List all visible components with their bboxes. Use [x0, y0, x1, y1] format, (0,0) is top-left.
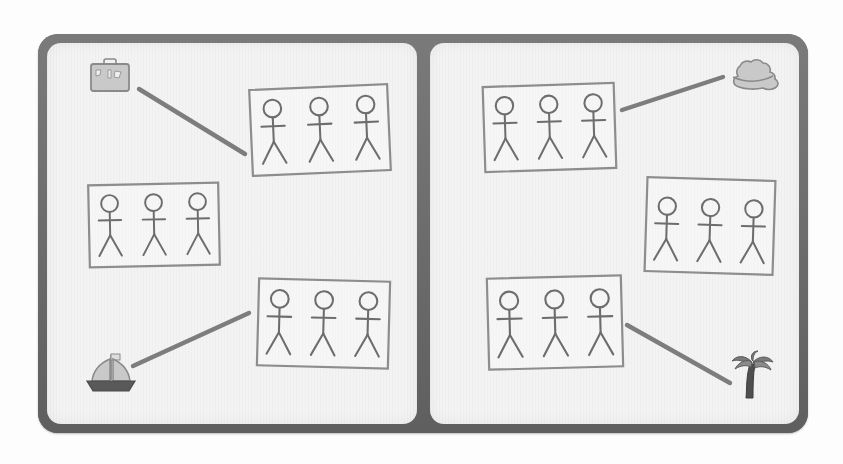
palm-tree-icon[interactable]: [728, 350, 776, 400]
sailboat-icon[interactable]: [84, 352, 138, 394]
photo-card[interactable]: [644, 176, 777, 276]
photo-card[interactable]: [248, 83, 392, 177]
worksheet-stage: [0, 0, 843, 464]
cloud-icon[interactable]: [726, 56, 780, 92]
photo-card[interactable]: [486, 274, 624, 371]
photo-card[interactable]: [87, 182, 221, 269]
objects-layer: [0, 0, 843, 464]
photo-card[interactable]: [482, 82, 618, 173]
suitcase-icon[interactable]: [86, 56, 134, 96]
photo-card[interactable]: [256, 277, 391, 369]
